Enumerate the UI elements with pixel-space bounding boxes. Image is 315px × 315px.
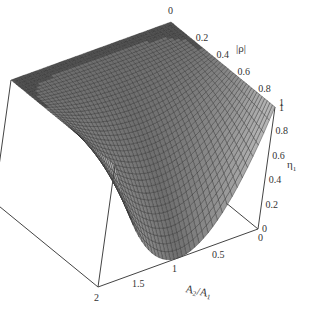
x-tick-label: 2 bbox=[94, 292, 99, 303]
x-tick-label: 0 bbox=[258, 232, 263, 243]
x-axis-label-sub-2: 1 bbox=[206, 293, 212, 302]
y-tick-label: 0.4 bbox=[217, 49, 230, 60]
y-tick-label: 0.6 bbox=[237, 66, 250, 77]
x-tick-label: 1 bbox=[172, 263, 177, 274]
y-tick-label: 0 bbox=[168, 5, 173, 16]
surface-plot: 00.20.40.60.8100.20.40.60.8100.511.52 |ρ… bbox=[0, 0, 315, 315]
x-tick-label: 1.5 bbox=[132, 278, 145, 289]
x-axis-label: A2/A1 bbox=[184, 282, 213, 301]
z-tick-label: 0.4 bbox=[269, 174, 282, 185]
surface-mesh bbox=[11, 22, 275, 260]
box-edge-left-vertical bbox=[0, 80, 11, 202]
z-axis-label-sub: 1 bbox=[293, 165, 297, 173]
box-edge-front-vertical bbox=[98, 165, 115, 287]
z-tick-label: 0.6 bbox=[272, 150, 285, 161]
y-tick-label: 0.2 bbox=[196, 32, 209, 43]
z-tick-label: 0.2 bbox=[265, 199, 278, 210]
y-tick-label: 0.8 bbox=[258, 83, 271, 94]
z-tick-label: 1 bbox=[279, 102, 284, 113]
y-axis-label: |ρ| bbox=[236, 42, 246, 54]
box-edge-bottom-left bbox=[0, 202, 98, 287]
x-tick-label: 0.5 bbox=[212, 249, 225, 260]
z-axis-label: η1 bbox=[287, 158, 297, 173]
z-tick-label: 0.8 bbox=[276, 125, 289, 136]
